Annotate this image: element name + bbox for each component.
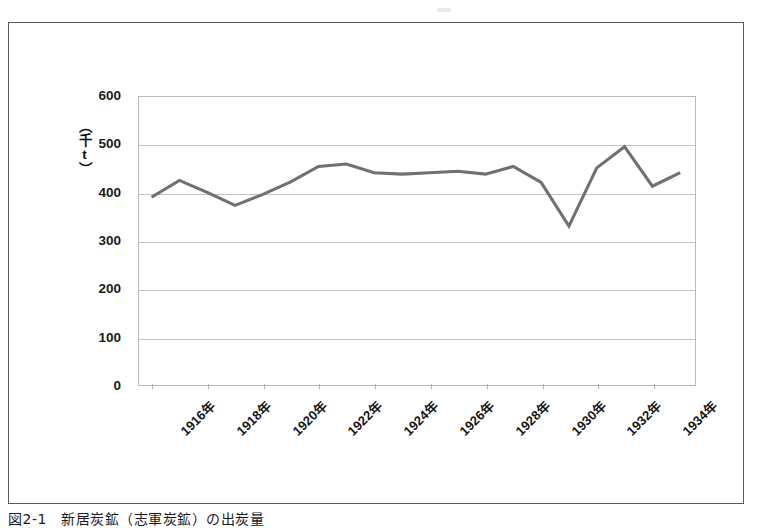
figure-frame: （千t） 6005004003002001000 1916年1918年1920年… xyxy=(8,22,744,504)
x-axis-tick-labels: 1916年1918年1920年1922年1924年1926年1928年1930年… xyxy=(138,389,696,479)
series-group xyxy=(152,147,681,226)
x-axis-tick-label: 1922年 xyxy=(346,399,385,438)
x-axis-tickmark xyxy=(319,384,320,389)
x-axis-tickmark xyxy=(375,384,376,389)
x-axis-tick-label: 1928年 xyxy=(513,399,552,438)
x-axis-tick-label: 1924年 xyxy=(401,399,440,438)
x-axis-tick-label: 1920年 xyxy=(290,399,329,438)
page-artifact-speck xyxy=(437,8,451,12)
x-axis-tickmark xyxy=(598,384,599,389)
series-line xyxy=(152,147,681,226)
x-axis-tickmark xyxy=(654,384,655,389)
x-axis-tick-label: 1926年 xyxy=(457,399,496,438)
x-axis-tick-label: 1918年 xyxy=(234,399,273,438)
x-axis-tickmark xyxy=(487,384,488,389)
figure-caption: 図2-1 新居炭鉱（志軍炭鉱）の出炭量 xyxy=(8,508,264,528)
x-axis-tick-label: 1930年 xyxy=(569,399,608,438)
x-axis-tickmark xyxy=(152,384,153,389)
x-axis-tick-label: 1932年 xyxy=(625,399,664,438)
x-axis-tickmark xyxy=(431,384,432,389)
x-axis-tickmark xyxy=(208,384,209,389)
x-axis-tick-label: 1916年 xyxy=(178,399,217,438)
x-axis-tickmark xyxy=(264,384,265,389)
x-axis-tickmark xyxy=(543,384,544,389)
